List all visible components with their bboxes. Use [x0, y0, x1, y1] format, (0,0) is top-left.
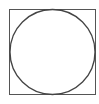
- square-with-inscribed-circle-diagram: [0, 0, 99, 104]
- inscribed-circle: [10, 10, 95, 95]
